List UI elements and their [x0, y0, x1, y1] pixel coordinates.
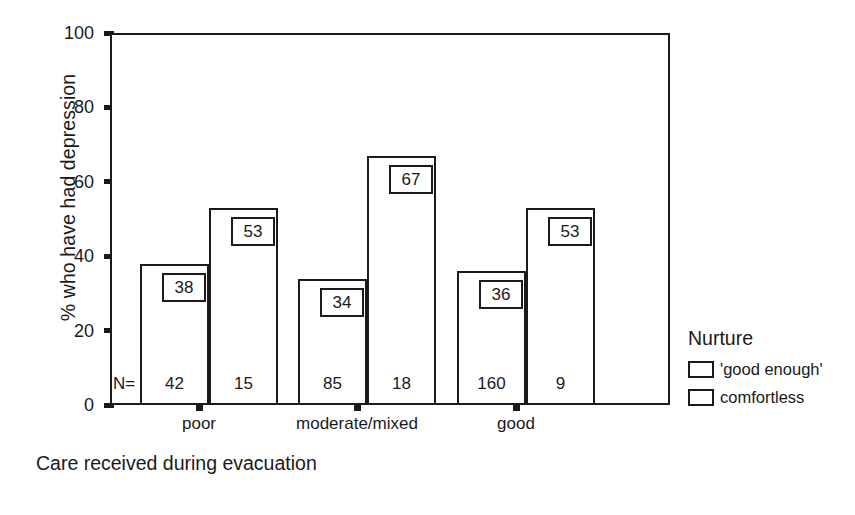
y-axis-tick-label: 80	[40, 98, 94, 116]
y-axis-tick-label: 60	[40, 173, 94, 191]
legend-item[interactable]: comfortless	[688, 388, 823, 407]
sample-size-label: 160	[457, 374, 526, 394]
legend-item-label: comfortless	[720, 388, 804, 407]
x-axis-tick-label: moderate/mixed	[267, 414, 447, 434]
x-axis-tick-label: poor	[109, 414, 289, 434]
legend: Nurture 'good enough'comfortless	[688, 327, 823, 416]
sample-size-label: 18	[367, 374, 436, 394]
sample-size-label: 15	[209, 374, 278, 394]
y-axis-tick-label: 40	[40, 247, 94, 265]
legend-item-label: 'good enough'	[720, 360, 823, 379]
x-axis-tick	[354, 403, 361, 411]
x-axis-tick	[196, 403, 203, 411]
bar-value-label: 38	[162, 273, 206, 302]
n-prefix-label: N=	[113, 374, 135, 394]
sample-size-label: 85	[298, 374, 367, 394]
x-axis-title: Care received during evacuation	[36, 452, 317, 475]
sample-size-label: 42	[140, 374, 209, 394]
bar-value-label: 67	[389, 165, 433, 194]
legend-swatch-icon	[688, 361, 714, 378]
legend-item[interactable]: 'good enough'	[688, 360, 823, 379]
y-axis-tick-label: 20	[40, 322, 94, 340]
bar-chart-figure: % who have had depression 020406080100 3…	[0, 0, 855, 515]
legend-swatch-icon	[688, 389, 714, 406]
bar-value-label: 53	[548, 217, 592, 246]
bar-value-label: 53	[231, 217, 275, 246]
sample-size-label: 9	[526, 374, 595, 394]
bar-value-label: 34	[320, 288, 364, 317]
legend-title: Nurture	[688, 327, 823, 350]
bar-value-label: 36	[479, 280, 523, 309]
x-axis-tick	[513, 403, 520, 411]
y-axis-tick-label: 0	[40, 396, 94, 414]
legend-items: 'good enough'comfortless	[688, 360, 823, 407]
y-axis-tick-label: 100	[40, 24, 94, 42]
x-axis-tick-label: good	[426, 414, 606, 434]
